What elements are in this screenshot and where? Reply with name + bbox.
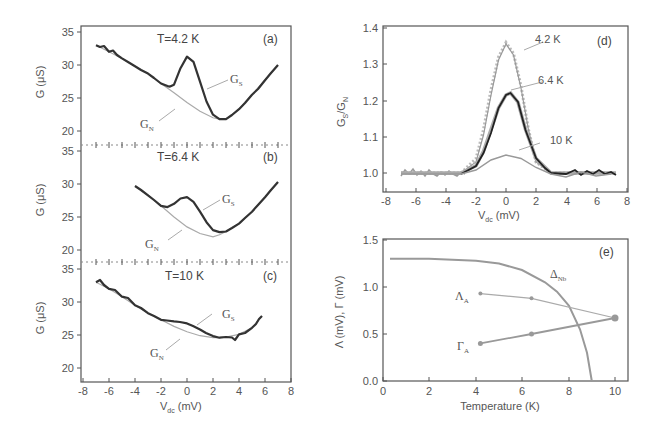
series-4.2K-data <box>401 43 611 174</box>
panel-b-gs-curve <box>135 182 278 232</box>
ytick-label: 20 <box>62 362 74 374</box>
y-axis-label: G (μS) <box>34 66 46 99</box>
panel-b-label: (b) <box>263 150 278 164</box>
gs-pointer <box>197 314 212 325</box>
x-axis-label: Temperature (K) <box>460 400 539 412</box>
xtick-label: 6 <box>262 385 268 397</box>
xtick-label: -4 <box>441 195 451 207</box>
panel-e-yaxis: 1.5 1.0 0.5 0.0 Λ (mV), Γ (mV) <box>333 234 387 387</box>
gamma-a-point <box>478 341 483 346</box>
panel-b-temperature: T=6.4 K <box>157 150 199 164</box>
series-6.4K-data <box>401 93 616 173</box>
panel-e-frame <box>383 239 628 381</box>
y-axis-label: GS/GN <box>335 97 349 127</box>
xtick-label: -4 <box>130 385 140 397</box>
panel-b-yaxis: 35 30 25 20 G (μS) <box>34 145 81 256</box>
y-axis-label: G (μS) <box>34 302 46 335</box>
ytick-label: 1.0 <box>363 281 378 293</box>
left-panels: 35 30 25 20 G (μS) 35 30 25 20 G (μS) 35… <box>34 26 294 414</box>
x-axis-label: Vdc(mV) <box>160 400 202 414</box>
gamma-a-point <box>529 332 534 337</box>
ytick-label: 30 <box>62 178 74 190</box>
series-4.2K-fit <box>461 44 551 173</box>
panel-d: 1.4 1.3 1.2 1.1 1.0 GS/GN -8 -6 -4 -2 0 … <box>335 22 630 223</box>
x-axis-label: Vdc(mV) <box>478 209 520 223</box>
panel-c: T=10 K (c) GS GN <box>96 269 277 362</box>
xtick-label: -8 <box>78 385 88 397</box>
xtick-label: 0 <box>503 195 509 207</box>
panel-c-gs-curve <box>96 280 262 340</box>
panel-c-gn-curve <box>96 282 262 338</box>
gn-label: GN <box>140 117 154 133</box>
ytick-label: 1.0 <box>363 167 378 179</box>
xtick-label: -6 <box>411 195 421 207</box>
gs-pointer <box>207 80 228 89</box>
series-label-4.2K: 4.2 K <box>535 33 561 45</box>
ytick-label: 1.1 <box>363 131 378 143</box>
panel-a: T=4.2 K (a) GS GN <box>96 32 278 133</box>
xtick-label: 8 <box>566 385 572 397</box>
panel-d-yaxis: 1.4 1.3 1.2 1.1 1.0 GS/GN <box>335 22 387 179</box>
gn-pointer <box>166 339 180 350</box>
shared-point-10K <box>612 315 619 322</box>
xtick-label: 4 <box>564 195 570 207</box>
gn-pointer <box>159 109 175 121</box>
panel-b: T=6.4 K (b) GS GN <box>135 150 278 253</box>
gs-label: GS <box>222 307 235 323</box>
panel-b-gn-curve <box>135 182 278 237</box>
panel-e-label: (e) <box>599 245 614 259</box>
y-axis-label: G (μS) <box>34 184 46 217</box>
lambda-a-label: ΛA <box>455 289 469 305</box>
panel-e: 1.5 1.0 0.5 0.0 Λ (mV), Γ (mV) 0 2 4 6 8… <box>333 234 628 412</box>
panel-d-frame <box>383 26 628 192</box>
series-label-10K: 10 K <box>550 134 573 146</box>
gamma-a-label: ΓA <box>457 339 469 355</box>
panel-a-gs-curve <box>96 45 278 119</box>
ytick-label: 35 <box>62 145 74 157</box>
xtick-label: 2 <box>210 385 216 397</box>
xtick-label: 6 <box>594 195 600 207</box>
xtick-label: 2 <box>426 385 432 397</box>
ytick-label: 0.5 <box>363 328 378 340</box>
xtick-label: -6 <box>104 385 114 397</box>
xtick-label: 8 <box>624 195 630 207</box>
left-xaxis: -8 -6 -4 -2 0 2 4 6 8 Vdc(mV) <box>78 378 294 414</box>
panel-a-label: (a) <box>263 32 278 46</box>
ytick-label: 25 <box>62 211 74 223</box>
ytick-label: 25 <box>62 92 74 104</box>
ytick-label: 35 <box>62 263 74 275</box>
panel-e-xaxis: 0 2 4 6 8 10 Temperature (K) <box>380 377 621 412</box>
gn-label: GN <box>150 346 164 362</box>
xtick-label: -2 <box>156 385 166 397</box>
delta-nb-label: ΔNb <box>550 267 567 283</box>
xtick-label: 4 <box>236 385 242 397</box>
panel-a-yaxis: 35 30 25 20 G (μS) <box>34 26 81 137</box>
ytick-label: 20 <box>62 125 74 137</box>
xtick-label: -8 <box>381 195 391 207</box>
panel-d-label: (d) <box>597 34 612 48</box>
panel-c-temperature: T=10 K <box>165 269 204 283</box>
lambda-a-point <box>530 296 534 300</box>
ytick-label: 25 <box>62 329 74 341</box>
gs-label: GS <box>222 192 235 208</box>
xtick-label: 0 <box>184 385 190 397</box>
gs-label: GS <box>230 72 243 88</box>
ytick-label: 30 <box>62 59 74 71</box>
ytick-label: 30 <box>62 296 74 308</box>
panel-c-label: (c) <box>263 269 277 283</box>
xtick-label: -2 <box>471 195 481 207</box>
ytick-label: 35 <box>62 26 74 38</box>
lambda-a-point <box>478 292 482 296</box>
series-lambda-a <box>480 294 615 318</box>
xtick-label: 0 <box>380 385 386 397</box>
xtick-label: 10 <box>609 385 621 397</box>
panel-c-yaxis: 35 30 25 20 G (μS) <box>34 263 81 374</box>
ytick-label: 1.2 <box>363 95 378 107</box>
series-label-6.4K: 6.4 K <box>538 74 564 86</box>
gn-label: GN <box>145 237 159 253</box>
gs-pointer <box>203 200 220 210</box>
y-axis-label: Λ (mV), Γ (mV) <box>333 276 345 349</box>
series-gamma-a <box>480 318 615 343</box>
ytick-label: 20 <box>62 244 74 256</box>
gn-pointer <box>168 230 182 240</box>
